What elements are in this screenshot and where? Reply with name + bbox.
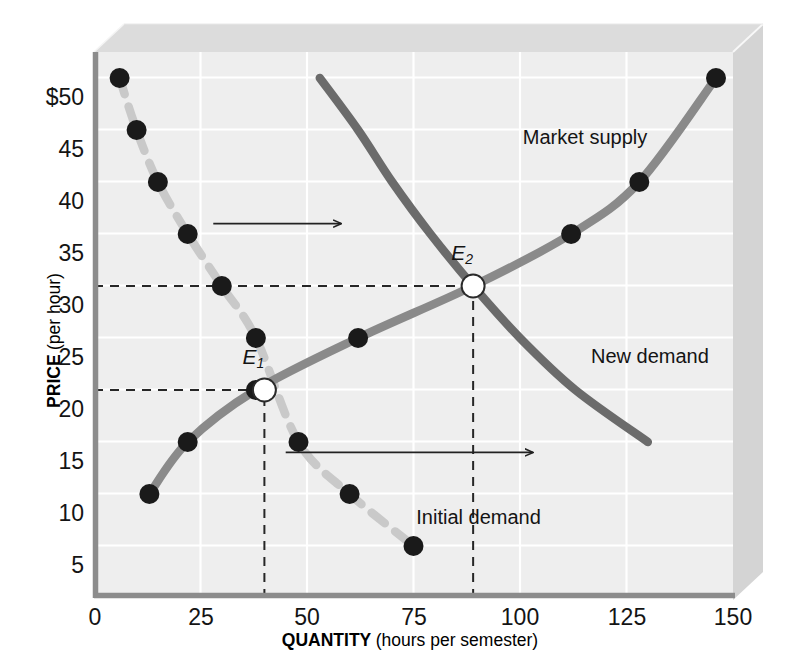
data-point [348,328,368,348]
y-tick-40: 40 [8,188,84,215]
x-axis-title-unit: (hours per semester) [376,630,538,650]
x-axis-title: QUANTITY (hours per semester) [240,630,580,651]
y-tick-10: 10 [8,500,84,527]
data-point [127,120,147,140]
x-axis-title-main: QUANTITY [282,630,371,650]
equilibrium-e2-letter: E [451,241,465,264]
market-supply-label: Market supply [523,126,648,149]
data-point [561,224,581,244]
equilibrium-e1-label: E1 [242,345,264,371]
x-tick-0: 0 [64,604,126,631]
equilibrium-e1-letter: E [242,345,256,368]
y-tick-45: 45 [8,136,84,163]
data-point [148,172,168,192]
data-point [110,68,130,88]
equilibrium-e1-marker [253,379,276,402]
slab-top-face [94,24,763,52]
data-point [404,536,424,556]
x-tick-50: 50 [276,604,338,631]
data-point [629,172,649,192]
equilibrium-e1-subscript: 1 [256,355,264,371]
initial-demand-label: Initial demand [416,506,541,529]
x-tick-125: 125 [596,604,658,631]
equilibrium-e2-subscript: 2 [465,251,473,267]
supply-demand-chart [0,0,785,660]
x-tick-75: 75 [383,604,445,631]
y-axis-title-unit: (per hour) [44,273,64,350]
y-axis-title: PRICE (per hour) [44,241,65,441]
new-demand-label: New demand [591,345,709,368]
data-point [706,68,726,88]
y-tick-15: 15 [8,448,84,475]
y-axis-title-main: PRICE [44,354,64,407]
x-tick-150: 150 [702,604,764,631]
data-point [178,224,198,244]
data-point [340,484,360,504]
data-point [139,484,159,504]
data-point [212,276,232,296]
y-tick-50: $50 [8,84,84,111]
data-point [289,432,309,452]
equilibrium-e2-marker [462,275,485,298]
slab-right-face [733,24,763,600]
chart-figure-root: $50 45 40 35 30 25 20 15 10 5 0 25 50 75… [0,0,785,660]
equilibrium-e2-label: E2 [451,241,473,267]
x-tick-25: 25 [170,604,232,631]
data-point [178,432,198,452]
x-tick-100: 100 [489,604,551,631]
y-tick-5: 5 [8,552,84,579]
